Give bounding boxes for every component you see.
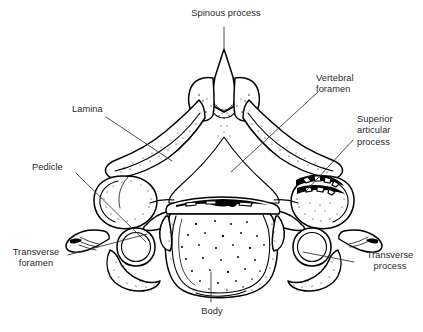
label-spinous-process: Spinous process — [168, 8, 284, 19]
label-superior-articular-process: Superiorarticularprocess — [357, 114, 423, 148]
label-lamina: Lamina — [72, 104, 120, 115]
label-pedicle: Pedicle — [32, 162, 80, 173]
label-transverse-foramen: Transverseforamen — [2, 247, 70, 270]
right-superior-articular-process — [291, 175, 354, 229]
label-transverse-process: Transverseprocess — [357, 250, 423, 273]
vertebra-figure: Spinous process Vertebralforamen Superio… — [0, 0, 423, 332]
label-vertebral-foramen: Vertebralforamen — [316, 73, 394, 96]
label-body: Body — [190, 306, 234, 317]
left-superior-articular-process — [94, 176, 157, 229]
vertebral-body-shape — [160, 197, 285, 298]
left-transverse-process — [66, 228, 160, 291]
vertebral-foramen-shape — [169, 137, 279, 203]
